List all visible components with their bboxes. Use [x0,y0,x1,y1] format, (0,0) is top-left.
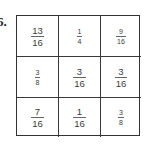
fraction-bar [35,77,41,78]
denominator: 16 [115,79,128,88]
numerator: 1 [76,107,83,117]
numerator: 3 [76,67,83,77]
grid-cell-r2-c1: 1 16 [59,98,101,137]
grid-cell-r1-c0: 3 8 [17,57,59,98]
denominator: 8 [118,119,124,126]
denominator: 16 [73,119,86,128]
numerator: 7 [34,107,41,117]
fraction-bar [116,36,126,37]
denominator: 16 [31,119,44,128]
denominator: 4 [77,38,83,45]
fraction: 3 8 [118,109,124,126]
problem-number: 6. [0,15,7,28]
fraction-grid: 13 16 1 4 9 16 3 8 3 16 [16,15,140,136]
grid-cell-r1-c2: 3 16 [101,57,141,98]
numerator: 9 [118,28,124,36]
numerator: 3 [117,67,124,77]
grid-cell-r1-c1: 3 16 [59,57,101,98]
fraction: 3 16 [73,67,86,88]
denominator: 8 [35,79,41,86]
numerator: 3 [35,69,41,77]
grid-cell-r0-c0: 13 16 [17,16,59,57]
fraction: 3 8 [35,69,41,86]
grid-cell-r2-c0: 7 16 [17,98,59,137]
grid-cell-r2-c2: 3 8 [101,98,141,137]
denominator: 16 [116,38,126,45]
denominator: 16 [73,79,86,88]
fraction: 13 16 [31,26,44,47]
fraction-bar [118,117,124,118]
fraction: 1 4 [77,28,83,45]
grid-cell-r0-c1: 1 4 [59,16,101,57]
denominator: 16 [31,38,44,47]
numerator: 3 [118,109,124,117]
fraction: 7 16 [31,107,44,128]
fraction: 1 16 [73,107,86,128]
numerator: 13 [31,26,44,36]
fraction: 3 16 [115,67,128,88]
fraction-bar [77,36,83,37]
fraction: 9 16 [116,28,126,45]
grid-cell-r0-c2: 9 16 [101,16,141,57]
numerator: 1 [77,28,83,36]
